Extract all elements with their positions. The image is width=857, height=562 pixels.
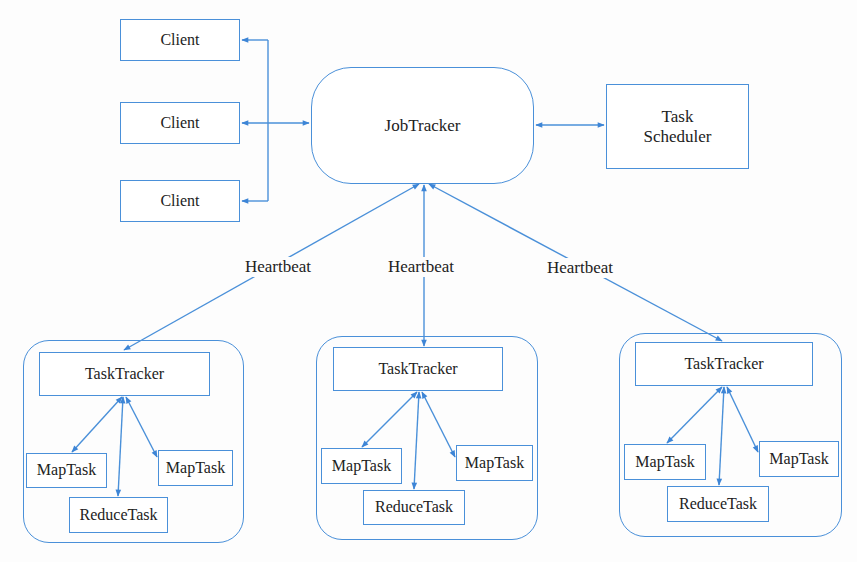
- maptask-box-left-2: MapTask: [158, 450, 233, 486]
- heartbeat-label-left: Heartbeat: [243, 257, 313, 277]
- maptask-label: MapTask: [769, 450, 828, 468]
- heartbeat-label-middle: Heartbeat: [386, 257, 456, 277]
- client-label: Client: [160, 31, 199, 49]
- maptask-box-right-1: MapTask: [624, 444, 706, 480]
- client-label: Client: [160, 192, 199, 210]
- jobtracker-label: JobTracker: [385, 116, 461, 136]
- maptask-box-left-1: MapTask: [26, 453, 107, 488]
- task-scheduler-box: Task Scheduler: [606, 84, 749, 169]
- tasktracker-label: TaskTracker: [684, 355, 763, 373]
- reducetask-label: ReduceTask: [375, 498, 453, 516]
- maptask-label: MapTask: [166, 459, 225, 477]
- tasktracker-label: TaskTracker: [85, 365, 164, 383]
- maptask-label: MapTask: [332, 457, 391, 475]
- tasktracker-box-middle: TaskTracker: [333, 347, 503, 391]
- tasktracker-box-left: TaskTracker: [39, 352, 210, 396]
- reducetask-label: ReduceTask: [80, 506, 158, 524]
- client-box-2: Client: [120, 102, 240, 144]
- client-label: Client: [160, 114, 199, 132]
- jobtracker-box: JobTracker: [311, 67, 534, 184]
- maptask-box-right-2: MapTask: [759, 441, 839, 477]
- tasktracker-box-right: TaskTracker: [635, 342, 813, 386]
- maptask-box-middle-1: MapTask: [321, 448, 402, 484]
- reducetask-box-middle: ReduceTask: [363, 490, 465, 525]
- client-box-1: Client: [120, 19, 240, 61]
- scheduler-label-line2: Scheduler: [644, 127, 712, 147]
- maptask-label: MapTask: [37, 461, 96, 479]
- client-box-3: Client: [120, 180, 240, 222]
- reducetask-label: ReduceTask: [679, 495, 757, 513]
- maptask-label: MapTask: [635, 453, 694, 471]
- tasktracker-label: TaskTracker: [378, 360, 457, 378]
- reducetask-box-left: ReduceTask: [69, 497, 168, 533]
- scheduler-label-line1: Task: [662, 107, 694, 127]
- maptask-label: MapTask: [465, 454, 524, 472]
- diagram-canvas: Client Client Client JobTracker Task Sch…: [0, 0, 857, 562]
- heartbeat-label-right: Heartbeat: [545, 258, 615, 278]
- maptask-box-middle-2: MapTask: [456, 445, 533, 481]
- reducetask-box-right: ReduceTask: [667, 486, 769, 522]
